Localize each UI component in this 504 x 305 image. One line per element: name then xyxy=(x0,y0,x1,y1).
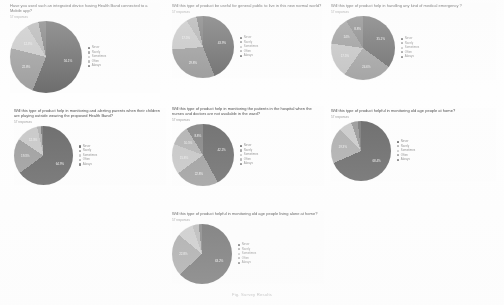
legend-swatch-icon xyxy=(240,55,242,57)
pie-wrap: 63.2%22.8% xyxy=(172,224,232,284)
legend-swatch-icon xyxy=(240,41,242,43)
pie-chart: 63.2%22.8% xyxy=(172,224,232,284)
legend-swatch-icon xyxy=(88,51,90,53)
chart-body: 64.9%19.3%12.3% NeverRarelySometimesOfte… xyxy=(14,126,166,185)
chart-legend: NeverRarelySometimesOftenAlways xyxy=(234,144,258,165)
chart-card-5: Will this type of product help in monito… xyxy=(172,106,324,186)
legend-swatch-icon xyxy=(240,50,242,52)
legend-swatch-icon xyxy=(238,262,240,264)
legend-swatch-icon xyxy=(240,37,242,39)
legend-label: Never xyxy=(242,243,250,246)
legend-item: Sometimes xyxy=(238,252,256,255)
pie-slice-label: 35.1% xyxy=(377,37,385,41)
chart-card-6: Will this type of product helpful in mon… xyxy=(331,108,496,181)
chart-response-count: 57 responses xyxy=(14,120,166,124)
legend-swatch-icon xyxy=(79,159,81,161)
pie-wrap: 35.1%24.6%17.5%14%8.8% xyxy=(331,16,395,80)
chart-body: 42.1%22.8%15.8%10.5%8.8% NeverRarelySome… xyxy=(172,124,324,186)
pie-slice-label: 8.8% xyxy=(194,134,201,138)
legend-label: Always xyxy=(244,54,253,57)
chart-response-count: 57 responses xyxy=(10,15,160,19)
legend-item: Always xyxy=(79,163,97,166)
chart-legend: NeverRarelySometimesOftenAlways xyxy=(82,46,106,67)
legend-label: Always xyxy=(92,64,101,67)
legend-item: Always xyxy=(401,55,419,58)
legend-swatch-icon xyxy=(397,154,399,156)
legend-swatch-icon xyxy=(238,253,240,255)
legend-swatch-icon xyxy=(401,47,403,49)
pie-wrap: 68.4%19.3% xyxy=(331,121,391,181)
legend-label: Always xyxy=(83,163,92,166)
legend-swatch-icon xyxy=(240,46,242,48)
legend-swatch-icon xyxy=(79,150,81,152)
chart-body: 56.1%22.8%12.3% NeverRarelySometimesOfte… xyxy=(10,21,160,93)
pie-slice-label: 22.8% xyxy=(195,172,203,176)
pie-chart: 68.4%19.3% xyxy=(331,121,391,181)
pie-slice-label: 42.1% xyxy=(217,148,225,152)
chart-card-2: Will this type of product be useful for … xyxy=(172,3,322,78)
chart-body: 43.9%29.8%17.5% NeverRarelySometimesOfte… xyxy=(172,16,322,78)
legend-swatch-icon xyxy=(240,149,242,151)
survey-results-page: Have you used such an integrated device … xyxy=(0,0,504,305)
chart-legend: NeverRarelySometimesOftenAlways xyxy=(391,140,415,161)
pie-slice-label: 29.8% xyxy=(189,61,197,65)
pie-slice-label: 22.8% xyxy=(22,65,30,69)
legend-label: Always xyxy=(401,158,410,161)
legend-label: Always xyxy=(244,162,253,165)
pie-slice-label: 68.4% xyxy=(372,159,380,163)
legend-item: Never xyxy=(240,36,258,39)
legend-swatch-icon xyxy=(79,163,81,165)
legend-label: Sometimes xyxy=(401,149,415,152)
legend-swatch-icon xyxy=(240,163,242,165)
legend-item: Always xyxy=(240,54,258,57)
pie-slice-label: 63.2% xyxy=(215,259,223,263)
pie-wrap: 42.1%22.8%15.8%10.5%8.8% xyxy=(172,124,234,186)
chart-legend: NeverRarelySometimesOftenAlways xyxy=(73,145,97,166)
chart-card-1: Have you used such an integrated device … xyxy=(10,3,160,93)
pie-slice-label: 17.5% xyxy=(182,36,190,40)
legend-swatch-icon xyxy=(401,51,403,53)
pie-slice-label: 12.3% xyxy=(24,42,32,46)
legend-item: Sometimes xyxy=(401,46,419,49)
pie-slice-label: 17.5% xyxy=(341,54,349,58)
pie-slice-label: 8.8% xyxy=(354,27,361,31)
legend-item: Always xyxy=(240,162,258,165)
legend-swatch-icon xyxy=(240,154,242,156)
pie-slice-label: 22.8% xyxy=(179,252,187,256)
legend-item: Sometimes xyxy=(397,149,415,152)
chart-legend: NeverRarelySometimesOftenAlways xyxy=(395,37,419,58)
chart-card-4: Will this type of product help in monito… xyxy=(14,108,166,185)
legend-item: Never xyxy=(397,140,415,143)
legend-item: Always xyxy=(397,158,415,161)
legend-swatch-icon xyxy=(88,60,90,62)
pie-chart: 35.1%24.6%17.5%14%8.8% xyxy=(331,16,395,80)
pie-slice-label: 19.3% xyxy=(21,154,29,158)
legend-swatch-icon xyxy=(401,56,403,58)
chart-title: Will this type of product be useful for … xyxy=(172,3,322,8)
legend-swatch-icon xyxy=(88,47,90,49)
pie-chart: 42.1%22.8%15.8%10.5%8.8% xyxy=(172,124,234,186)
pie-slice-label: 56.1% xyxy=(64,59,72,63)
legend-swatch-icon xyxy=(88,65,90,67)
legend-label: Sometimes xyxy=(244,45,258,48)
legend-swatch-icon xyxy=(240,158,242,160)
legend-item: Always xyxy=(88,64,106,67)
chart-response-count: 57 responses xyxy=(172,10,322,14)
chart-legend: NeverRarelySometimesOftenAlways xyxy=(234,36,258,57)
legend-swatch-icon xyxy=(397,141,399,143)
legend-swatch-icon xyxy=(397,150,399,152)
legend-item: Sometimes xyxy=(240,45,258,48)
legend-label: Always xyxy=(405,55,414,58)
chart-title: Will this type of product help in monito… xyxy=(14,108,166,118)
pie-wrap: 56.1%22.8%12.3% xyxy=(10,21,82,93)
legend-swatch-icon xyxy=(79,145,81,147)
pie-wrap: 64.9%19.3%12.3% xyxy=(14,126,73,185)
pie-slice-label: 64.9% xyxy=(56,162,64,166)
chart-body: 68.4%19.3% NeverRarelySometimesOftenAlwa… xyxy=(331,121,496,181)
legend-label: Never xyxy=(401,140,409,143)
legend-swatch-icon xyxy=(401,42,403,44)
legend-item: Never xyxy=(401,37,419,40)
chart-response-count: 57 responses xyxy=(172,218,324,222)
figure-caption: Fig. Survey Results xyxy=(0,292,504,297)
legend-item: Always xyxy=(238,261,256,264)
